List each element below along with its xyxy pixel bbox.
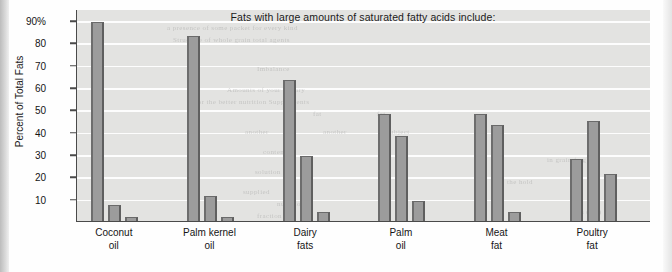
bleedthrough-line: fat — [313, 110, 322, 118]
bar — [491, 125, 504, 221]
bar — [570, 159, 583, 221]
bar — [317, 212, 330, 221]
bleedthrough-line: another — [323, 128, 347, 136]
page-bleedthrough-text: a presence of some packet for every kind… — [77, 10, 650, 221]
x-axis-category-label: Poultryfat — [577, 226, 608, 252]
y-axis-ticks: 90%8070605040302010 — [0, 0, 76, 272]
x-axis-category-label: Dairyfats — [293, 226, 316, 252]
gridline — [77, 200, 650, 202]
y-axis-tick-label: 20 — [35, 172, 46, 183]
bar — [187, 36, 200, 221]
bleedthrough-line: fraction — [257, 212, 282, 220]
x-axis-category-label-line: fat — [577, 239, 608, 252]
bar — [474, 114, 487, 221]
x-axis-category-label: Palmoil — [389, 226, 412, 252]
bar — [108, 205, 121, 221]
bar — [91, 22, 104, 221]
bleedthrough-line: in grain (mg) — [547, 156, 589, 164]
x-axis-category-label-line: fat — [485, 239, 507, 252]
bar — [395, 136, 408, 221]
bleedthrough-line: Imbalance — [257, 65, 290, 73]
gridline — [77, 110, 650, 112]
bar — [587, 121, 600, 221]
y-axis-tick-label: 10 — [35, 194, 46, 205]
bar — [125, 217, 138, 221]
gridline — [77, 133, 650, 135]
gridline — [77, 177, 650, 179]
x-axis-category-label-line: oil — [183, 239, 236, 252]
y-axis-tick-label: 60 — [35, 83, 46, 94]
y-axis-tick-label: 80 — [35, 38, 46, 49]
bar — [300, 156, 313, 221]
bar — [221, 217, 234, 221]
bleedthrough-line: a presence of some packet for every kind — [167, 24, 298, 32]
y-axis-tick-label: 90% — [26, 16, 46, 27]
bar — [508, 212, 521, 221]
x-axis-category-labels: CoconutoilPalm kerneloilDairyfatsPalmoil… — [76, 226, 650, 270]
x-axis-category-label-line: oil — [95, 239, 132, 252]
gridlines — [77, 10, 650, 221]
chart-title: Fats with large amounts of saturated fat… — [76, 11, 650, 23]
x-axis-category-label-line: Poultry — [577, 227, 608, 238]
bleedthrough-line: supplied — [243, 188, 270, 196]
x-axis-category-label-line: fats — [293, 239, 316, 252]
bar — [378, 114, 391, 221]
bar — [283, 80, 296, 221]
gridline — [77, 155, 650, 157]
y-axis-tick-label: 40 — [35, 127, 46, 138]
bleedthrough-line: the hold — [507, 178, 533, 186]
gridline — [77, 66, 650, 68]
gridline — [77, 88, 650, 90]
x-axis-category-label-line: Dairy — [293, 227, 316, 238]
bar — [412, 201, 425, 221]
gridline — [77, 43, 650, 45]
bar — [604, 174, 617, 221]
x-axis-category-label-line: Palm — [389, 227, 412, 238]
x-axis-category-label-line: Meat — [485, 227, 507, 238]
bar — [204, 196, 217, 221]
y-axis-tick-label: 50 — [35, 105, 46, 116]
bar-chart: Percent of Total Fats 90%807060504030201… — [0, 0, 672, 272]
x-axis-category-label: Palm kerneloil — [183, 226, 236, 252]
x-axis-category-label-line: Coconut — [95, 227, 132, 238]
y-axis-tick-label: 30 — [35, 150, 46, 161]
x-axis-category-label-line: oil — [389, 239, 412, 252]
x-axis-category-label-line: Palm kernel — [183, 227, 236, 238]
x-axis-category-label: Meatfat — [485, 226, 507, 252]
bleedthrough-line: another — [245, 128, 269, 136]
bleedthrough-line: solution — [255, 168, 281, 176]
plot-area: a presence of some packet for every kind… — [76, 10, 650, 222]
x-axis-category-label: Coconutoil — [95, 226, 132, 252]
y-axis-tick-label: 70 — [35, 60, 46, 71]
